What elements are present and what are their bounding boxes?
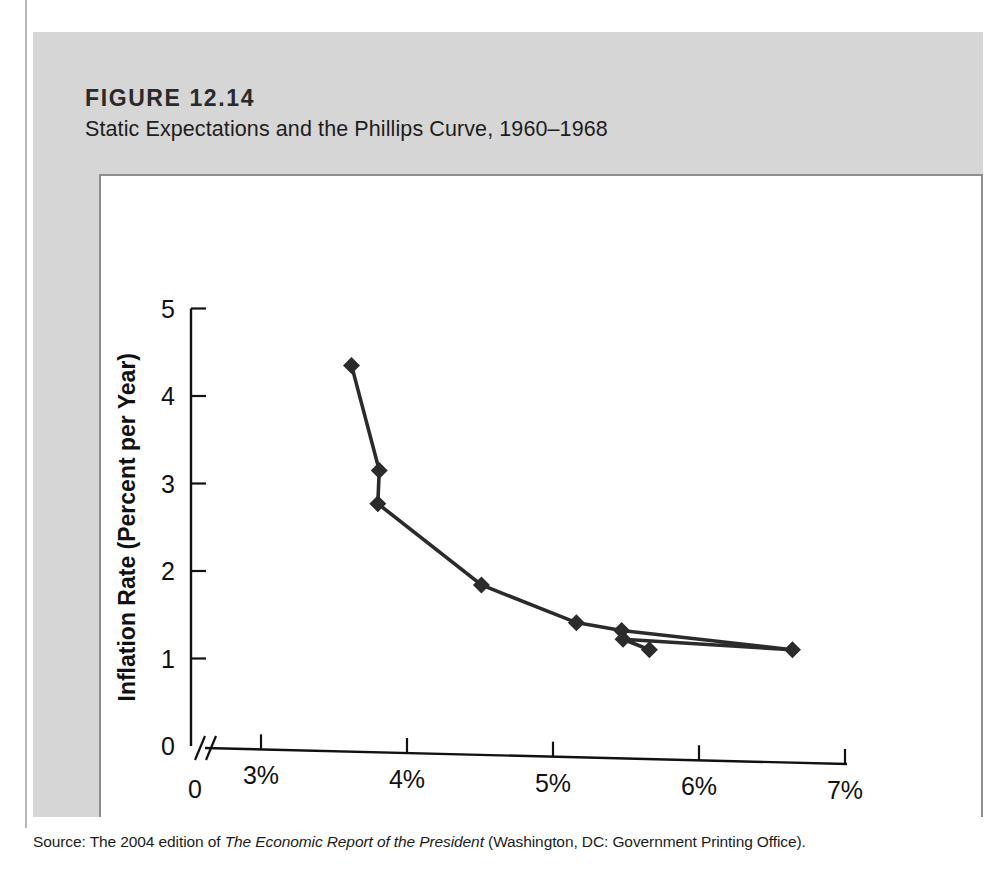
- figure-number: FIGURE 12.14: [85, 84, 785, 113]
- y-tick-label-3: 3: [161, 470, 175, 498]
- y-axis-title: Inflation Rate (Percent per Year): [114, 353, 140, 702]
- y-tick-label-1: 1: [161, 645, 175, 673]
- x-tick-label-5%: 5%: [535, 769, 571, 797]
- y-tick-label-2: 2: [161, 557, 175, 585]
- page-margin-rule: [25, 0, 27, 828]
- x-axis-break-mark-0: [195, 736, 205, 760]
- source-footer: Source: The 2004 edition of The Economic…: [33, 817, 983, 875]
- tick-labels-group: 01234503%4%5%6%7%: [161, 295, 863, 804]
- y-tick-label-4: 4: [161, 382, 175, 410]
- figure-subtitle: Static Expectations and the Phillips Cur…: [85, 116, 785, 144]
- x-tick-label-6%: 6%: [681, 772, 717, 800]
- data-point-marker-0: [343, 357, 360, 374]
- x-tick-label-0: 0: [188, 775, 202, 803]
- tick-marks-group: [191, 309, 845, 764]
- figure-panel: FIGURE 12.14 Static Expectations and the…: [33, 32, 983, 817]
- figure-caption-block: FIGURE 12.14 Static Expectations and the…: [85, 84, 785, 144]
- x-tick-label-7%: 7%: [827, 776, 863, 804]
- x-axis-line: [205, 748, 847, 764]
- data-point-marker-4: [568, 614, 585, 631]
- x-tick-label-4%: 4%: [389, 765, 425, 793]
- data-point-marker-8: [784, 641, 801, 658]
- data-series-group: [343, 357, 801, 658]
- x-tick-label-3%: 3%: [243, 761, 279, 789]
- axes-group: [191, 309, 847, 765]
- y-tick-label-5: 5: [161, 295, 175, 323]
- phillips-curve-line: [352, 365, 793, 649]
- data-point-marker-7: [641, 641, 658, 658]
- chart-plot-frame: 01234503%4%5%6%7% Unemployment RateInfla…: [99, 174, 983, 826]
- source-prefix: Source: The 2004 edition of: [33, 833, 225, 850]
- data-point-marker-1: [371, 462, 388, 479]
- source-text: Source: The 2004 edition of The Economic…: [33, 833, 806, 851]
- y-tick-label-0: 0: [161, 732, 175, 760]
- source-suffix: (Washington, DC: Government Printing Off…: [484, 833, 806, 850]
- source-title-italic: The Economic Report of the President: [225, 833, 484, 850]
- phillips-curve-chart: 01234503%4%5%6%7% Unemployment RateInfla…: [101, 176, 981, 824]
